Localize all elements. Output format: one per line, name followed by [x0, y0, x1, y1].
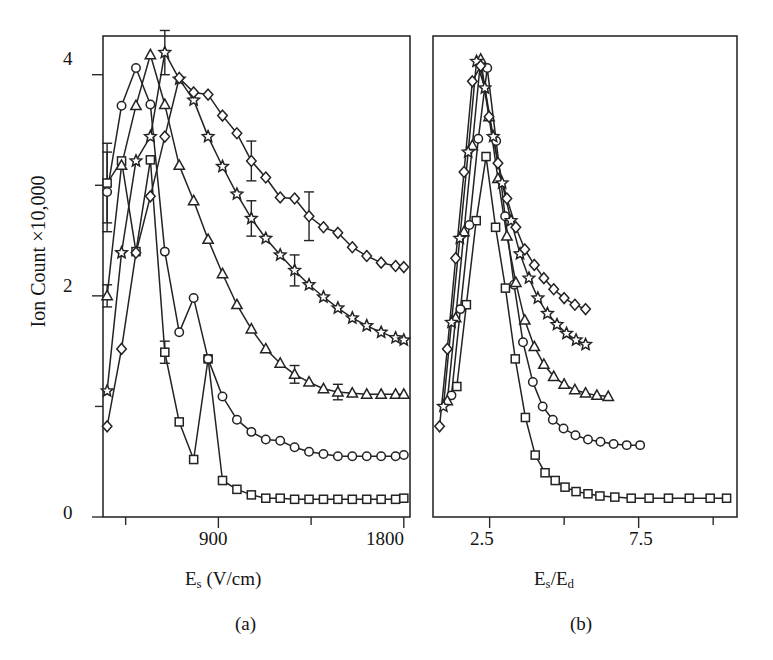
data-point-circle-7	[204, 355, 212, 363]
data-point-triangle-19	[376, 389, 386, 398]
data-point-diamond-0	[435, 421, 445, 432]
data-point-circle-1	[456, 305, 464, 313]
data-point-star-16	[580, 338, 592, 349]
data-point-square-13	[584, 490, 592, 498]
panel-a-x-tick-900: 900	[199, 528, 228, 550]
data-point-square-16	[334, 495, 342, 503]
data-point-circle-11	[262, 435, 270, 443]
panel-a	[92, 30, 410, 528]
data-point-square-17	[348, 495, 356, 503]
data-point-triangle-10	[529, 341, 539, 350]
series-markers-a-diamond	[102, 73, 408, 432]
data-point-square-8	[531, 451, 539, 459]
data-point-circle-17	[348, 452, 356, 460]
data-point-triangle-9	[520, 315, 530, 324]
data-point-diamond-20	[391, 261, 401, 272]
panel-a-caption: (a)	[235, 613, 256, 635]
data-point-square-19	[377, 495, 385, 503]
data-point-circle-4	[161, 247, 169, 255]
data-point-circle-15	[319, 450, 327, 458]
panel-a-x-axis-title: Es (V/cm)	[185, 568, 261, 592]
data-point-square-6	[511, 355, 519, 363]
data-point-square-21	[400, 494, 408, 502]
series-line-b-square	[457, 157, 727, 499]
data-point-square-12	[276, 494, 284, 502]
data-point-circle-21	[400, 451, 408, 459]
data-point-triangle-13	[559, 379, 569, 388]
data-point-star-10	[523, 272, 535, 283]
data-point-star-7	[202, 131, 214, 142]
data-point-circle-12	[276, 436, 284, 444]
data-point-square-10	[551, 476, 559, 484]
data-point-square-12	[572, 488, 580, 496]
chart-svg	[0, 0, 773, 660]
data-point-triangle-14	[570, 384, 580, 393]
data-point-circle-16	[609, 440, 617, 448]
series-line-b-circle	[451, 68, 640, 445]
panel-b	[433, 36, 737, 528]
data-point-square-10	[247, 491, 255, 499]
data-point-triangle-10	[246, 324, 256, 333]
data-point-star-2	[130, 155, 142, 166]
panel-a-x-tick-1800: 1800	[366, 528, 404, 550]
data-point-star-11	[532, 292, 544, 303]
data-point-square-3	[482, 152, 490, 160]
data-point-triangle-14	[304, 377, 314, 386]
data-point-square-0	[453, 382, 461, 390]
data-point-circle-12	[559, 424, 567, 432]
data-point-star-12	[542, 307, 554, 318]
data-point-circle-8	[218, 392, 226, 400]
data-point-diamond-21	[399, 262, 409, 273]
data-point-square-11	[561, 483, 569, 491]
data-point-circle-13	[571, 431, 579, 439]
data-point-square-11	[262, 494, 270, 502]
panel-b-x-tick-7-5: 7.5	[629, 528, 653, 550]
data-point-square-9	[233, 485, 241, 493]
data-point-square-16	[627, 494, 635, 502]
data-point-star-4	[159, 47, 171, 58]
panel-b-xlabel-denominator: E	[556, 568, 568, 589]
data-point-triangle-15	[318, 383, 328, 392]
data-point-circle-14	[584, 435, 592, 443]
plot-frame-b	[433, 36, 737, 517]
data-point-diamond-1	[117, 343, 127, 354]
data-point-circle-0	[103, 188, 111, 196]
data-point-triangle-9	[232, 299, 242, 308]
data-point-triangle-4	[160, 99, 170, 108]
data-point-square-9	[541, 469, 549, 477]
data-point-star-8	[217, 160, 229, 171]
data-point-circle-5	[175, 328, 183, 336]
series-markers-a-circle	[103, 64, 408, 461]
data-point-star-10	[246, 212, 258, 223]
data-point-triangle-21	[399, 389, 409, 398]
panel-b-xlabel-denominator-subscript: d	[568, 576, 574, 591]
data-point-circle-9	[529, 378, 537, 386]
data-point-square-8	[218, 476, 226, 484]
series-markers-b-circle	[447, 64, 644, 450]
data-point-square-7	[521, 413, 529, 421]
data-point-circle-9	[233, 415, 241, 423]
data-point-diamond-16	[581, 304, 591, 315]
data-point-square-6	[190, 455, 198, 463]
figure-container: Ion Count ×10,000 4 2 0 900 1800 2.5 7.5…	[0, 0, 773, 660]
data-point-square-19	[685, 494, 693, 502]
data-point-circle-15	[596, 438, 604, 446]
data-point-triangle-7	[203, 234, 213, 243]
data-point-diamond-15	[570, 299, 580, 310]
y-tick-label-4: 4	[63, 48, 73, 70]
data-point-circle-11	[549, 415, 557, 423]
data-point-circle-20	[391, 452, 399, 460]
data-point-star-17	[347, 312, 359, 323]
data-point-circle-17	[622, 441, 630, 449]
data-point-diamond-19	[376, 257, 386, 268]
y-tick-label-2: 2	[63, 275, 73, 297]
data-point-circle-14	[305, 448, 313, 456]
data-point-square-20	[392, 495, 400, 503]
data-point-star-9	[231, 188, 243, 199]
data-point-diamond-2	[451, 253, 461, 264]
data-point-square-18	[363, 495, 371, 503]
panel-a-xlabel-symbol: E	[185, 568, 197, 589]
data-point-diamond-15	[319, 222, 329, 233]
data-point-square-15	[319, 495, 327, 503]
data-point-square-21	[723, 494, 731, 502]
